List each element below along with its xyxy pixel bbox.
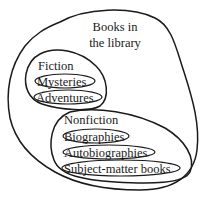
item-autobiographies: Autobiographies: [64, 146, 147, 160]
nonfiction-set: Nonfiction Biographies Autobiographies S…: [51, 110, 192, 183]
outer-set-label-line1: Books in: [93, 20, 139, 34]
item-mysteries: Mysteries: [37, 75, 86, 89]
item-biographies: Biographies: [64, 130, 125, 144]
item-adventures: Adventures: [36, 91, 94, 105]
fiction-set-label: Fiction: [38, 59, 74, 73]
fiction-set: Fiction Mysteries Adventures: [26, 50, 107, 110]
outer-set-label-line2: the library: [89, 36, 141, 50]
books-euler-diagram: Books in the library Fiction Mysteries A…: [0, 0, 210, 199]
nonfiction-set-label: Nonfiction: [64, 113, 119, 127]
item-subject-matter-books: Subject-matter books: [64, 162, 171, 176]
